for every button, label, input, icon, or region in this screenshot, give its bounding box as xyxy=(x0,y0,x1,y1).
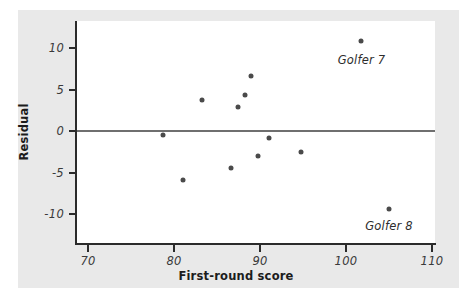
data-point xyxy=(387,207,392,212)
x-tick-mark xyxy=(259,245,261,252)
y-axis-line xyxy=(75,21,77,245)
x-tick-label: 110 xyxy=(421,254,444,268)
data-point xyxy=(160,133,165,138)
x-tick-mark xyxy=(345,245,347,252)
y-tick-mark xyxy=(69,172,76,174)
y-axis-title: Residual xyxy=(17,103,31,160)
x-axis-line xyxy=(75,243,436,245)
y-tick-label: -10 xyxy=(34,207,64,221)
y-tick-label: 5 xyxy=(34,83,64,97)
x-tick-mark xyxy=(87,245,89,252)
data-point xyxy=(248,74,253,79)
point-annotation-label: Golfer 7 xyxy=(338,53,386,67)
x-tick-label: 80 xyxy=(166,254,181,268)
y-tick-label: 0 xyxy=(34,124,64,138)
data-point xyxy=(359,39,364,44)
data-point xyxy=(228,165,233,170)
x-tick-label: 70 xyxy=(80,254,95,268)
data-point xyxy=(299,149,304,154)
x-tick-label: 100 xyxy=(335,254,358,268)
data-point xyxy=(235,104,240,109)
y-tick-label: -5 xyxy=(34,166,64,180)
x-tick-mark xyxy=(431,245,433,252)
data-point xyxy=(242,93,247,98)
data-point xyxy=(266,135,271,140)
zero-reference-line xyxy=(77,130,435,132)
data-point xyxy=(200,98,205,103)
y-tick-mark xyxy=(69,130,76,132)
y-tick-label: 10 xyxy=(34,41,64,55)
y-tick-mark xyxy=(69,213,76,215)
data-point xyxy=(256,153,261,158)
x-tick-label: 90 xyxy=(252,254,267,268)
x-axis-title: First-round score xyxy=(178,269,293,283)
data-point xyxy=(180,177,185,182)
scatter-plot-figure: 1050-5-10 708090100110 Golfer 7Golfer 8 … xyxy=(0,0,472,298)
y-tick-mark xyxy=(69,89,76,91)
point-annotation-label: Golfer 8 xyxy=(365,219,413,233)
x-tick-mark xyxy=(173,245,175,252)
y-tick-mark xyxy=(69,47,76,49)
